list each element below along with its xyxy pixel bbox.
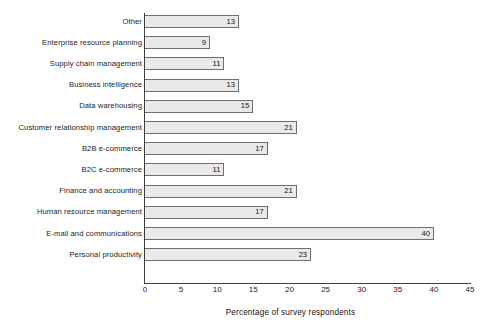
x-tick-label: 0 <box>143 286 147 294</box>
bar: 21 <box>145 185 297 198</box>
bar-value-label: 21 <box>284 124 292 132</box>
x-tick-label: 10 <box>213 286 222 294</box>
x-axis-title-text: Percentage of survey respondents <box>226 308 356 317</box>
bar: 17 <box>145 206 268 219</box>
x-tick-label: 15 <box>249 286 258 294</box>
bar: 9 <box>145 36 210 49</box>
bar-value-label: 40 <box>421 230 429 238</box>
bar-row: B2C e-commerce 11 <box>0 163 491 176</box>
x-tick-label: 20 <box>285 286 294 294</box>
bar-value-label: 9 <box>202 39 206 47</box>
category-label: Business intelligence <box>69 81 142 89</box>
category-label: B2C e-commerce <box>82 166 142 174</box>
category-label: Finance and accounting <box>59 187 142 195</box>
bar: 15 <box>145 100 253 113</box>
bar-row: B2B e-commerce 17 <box>0 142 491 155</box>
bar-row: E-mail and communications 40 <box>0 227 491 240</box>
x-tick-label: 40 <box>429 286 438 294</box>
bar-row: Finance and accounting 21 <box>0 185 491 198</box>
x-tick-label: 35 <box>393 286 402 294</box>
bar-value-label: 17 <box>255 145 263 153</box>
bar-row: Data warehousing 15 <box>0 100 491 113</box>
x-tick-label: 25 <box>321 286 330 294</box>
bar-row: Other 13 <box>0 15 491 28</box>
category-label: Data warehousing <box>79 103 142 111</box>
category-label: Other <box>123 18 143 26</box>
bar-value-label: 23 <box>299 251 307 259</box>
bar-value-label: 11 <box>213 60 221 68</box>
category-label: B2B e-commerce <box>82 145 142 153</box>
bar-row: Enterprise resource planning 9 <box>0 36 491 49</box>
category-label: E-mail and communications <box>46 230 142 238</box>
bar-value-label: 11 <box>213 166 221 174</box>
bar-rows-container: Other 13 Enterprise resource planning 9 … <box>0 0 491 283</box>
x-axis-ticks: 0 5 10 15 20 25 30 35 40 45 <box>0 284 491 302</box>
bar: 11 <box>145 163 224 176</box>
bar: 13 <box>145 79 239 92</box>
y-axis-line <box>144 13 145 284</box>
bar: 21 <box>145 121 297 134</box>
bar-value-label: 13 <box>226 81 234 89</box>
bar-value-label: 15 <box>241 103 249 111</box>
category-label: Enterprise resource planning <box>42 39 142 47</box>
bar: 11 <box>145 57 224 70</box>
bar-row: Business intelligence 13 <box>0 79 491 92</box>
category-label: Personal productivity <box>69 251 142 259</box>
bar: 40 <box>145 227 434 240</box>
bar-row: Customer relationship management 21 <box>0 121 491 134</box>
bar: 13 <box>145 15 239 28</box>
bar-value-label: 17 <box>255 209 263 217</box>
bar: 17 <box>145 142 268 155</box>
x-tick-label: 30 <box>357 286 366 294</box>
bar-row: Supply chain management 11 <box>0 57 491 70</box>
x-tick-label: 5 <box>179 286 183 294</box>
bar-chart: Other 13 Enterprise resource planning 9 … <box>0 0 491 330</box>
x-axis-title: Percentage of survey respondents <box>0 308 491 317</box>
x-tick-label: 45 <box>466 286 475 294</box>
category-label: Supply chain management <box>50 60 142 68</box>
bar-row: Human resource management 17 <box>0 206 491 219</box>
category-label: Customer relationship management <box>19 124 143 132</box>
bar: 23 <box>145 248 311 261</box>
bar-value-label: 13 <box>226 18 234 26</box>
category-label: Human resource management <box>37 209 142 217</box>
bar-value-label: 21 <box>284 187 292 195</box>
bar-row: Personal productivity 23 <box>0 248 491 261</box>
